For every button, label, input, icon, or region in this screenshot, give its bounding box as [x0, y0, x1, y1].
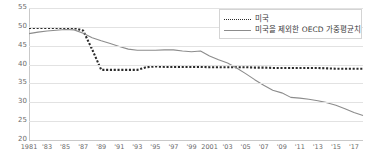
- y-axis-tick-label: 40: [3, 61, 27, 68]
- line-chart: 5550454035302520 1981'83'85'87'89'91'93'…: [0, 0, 367, 161]
- y-axis-tick-label: 55: [3, 4, 27, 11]
- x-axis-tick-label: '11: [295, 143, 305, 151]
- y-axis-tick-label: 20: [3, 136, 27, 143]
- gridline: [29, 102, 363, 103]
- y-axis-tick-label: 30: [3, 98, 27, 105]
- legend-label-oecd: 미국을 제외한 OECD 가중평균치: [251, 25, 361, 34]
- x-axis-tick-label: '97: [168, 143, 178, 151]
- legend-swatch-dotted-icon: [224, 15, 251, 23]
- gridline: [29, 65, 363, 66]
- x-axis-tick-label: 2001: [201, 143, 218, 151]
- x-axis-tick-label: '13: [313, 143, 323, 151]
- legend-item-oecd: 미국을 제외한 OECD 가중평균치: [224, 24, 356, 35]
- x-axis-tick-label: '87: [78, 143, 88, 151]
- x-axis: 1981'83'85'87'89'91'93'95'97'992001'03'0…: [0, 143, 367, 159]
- x-axis-tick-label: 1981: [21, 143, 38, 151]
- y-axis-tick-label: 25: [3, 117, 27, 124]
- gridline: [29, 46, 363, 47]
- x-axis-tick-label: '91: [114, 143, 124, 151]
- x-axis-tick-label: '09: [277, 143, 287, 151]
- x-axis-tick-label: '83: [42, 143, 52, 151]
- legend-swatch-solid-icon: [224, 26, 251, 34]
- x-axis-line: [29, 140, 363, 141]
- x-axis-tick-label: '85: [60, 143, 70, 151]
- y-axis-tick-label: 45: [3, 42, 27, 49]
- x-axis-tick-label: '99: [186, 143, 196, 151]
- gridline: [29, 83, 363, 84]
- x-axis-tick-label: '17: [349, 143, 359, 151]
- y-axis-tick-label: 35: [3, 79, 27, 86]
- gridline: [29, 121, 363, 122]
- legend: 미국 미국을 제외한 OECD 가중평균치: [219, 9, 362, 39]
- y-axis: 5550454035302520: [0, 0, 27, 161]
- x-axis-tick-label: '89: [96, 143, 106, 151]
- x-axis-tick-label: '93: [132, 143, 142, 151]
- x-axis-tick-label: '03: [223, 143, 233, 151]
- x-axis-tick-label: '15: [331, 143, 341, 151]
- legend-item-us: 미국: [224, 13, 356, 24]
- x-axis-tick-label: '05: [241, 143, 251, 151]
- y-axis-tick-label: 50: [3, 23, 27, 30]
- x-axis-tick-label: '07: [259, 143, 269, 151]
- legend-label-us: 미국: [251, 14, 269, 23]
- x-axis-tick-label: '95: [150, 143, 160, 151]
